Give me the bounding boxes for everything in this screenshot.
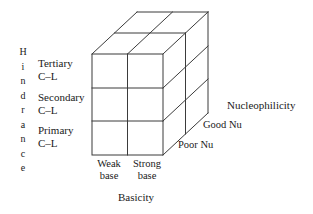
hindrance-category-tertiary: Tertiary C–L xyxy=(38,57,94,83)
hindrance-category-primary-line2: C–L xyxy=(38,137,94,150)
nucleophilicity-category-good-nu: Good Nu xyxy=(203,119,242,131)
hindrance-letter: c xyxy=(21,149,25,164)
basicity-category-strong-base-line1: Strong xyxy=(127,158,167,170)
hindrance-axis-title: H i n d r a n c e xyxy=(16,47,30,178)
basicity-category-weak-base-line2: base xyxy=(90,170,128,182)
hindrance-category-primary: Primary C–L xyxy=(38,124,94,150)
hindrance-category-tertiary-line1: Tertiary xyxy=(38,57,94,70)
front-face xyxy=(92,54,163,155)
basicity-category-strong-base-line2: base xyxy=(127,170,167,182)
nucleophilicity-category-poor-nu: Poor Nu xyxy=(178,139,213,151)
hindrance-letter: i xyxy=(22,62,25,77)
basicity-axis-title: Basicity xyxy=(100,191,172,204)
hindrance-letter: r xyxy=(21,105,24,120)
basicity-category-weak-base: Weak base xyxy=(90,158,128,183)
hindrance-category-tertiary-line2: C–L xyxy=(38,70,94,83)
hindrance-letter: e xyxy=(21,163,25,178)
hindrance-category-secondary-line1: Secondary xyxy=(38,91,94,104)
hindrance-letter: d xyxy=(21,91,26,106)
hindrance-category-secondary: Secondary C–L xyxy=(38,91,94,117)
hindrance-category-primary-line1: Primary xyxy=(38,124,94,137)
reaction-selection-cube-diagram: H i n d r a n c e Tertiary C–L Secondary… xyxy=(0,0,313,214)
nucleophilicity-axis-title: Nucleophilicity xyxy=(227,99,295,112)
basicity-category-strong-base: Strong base xyxy=(127,158,167,183)
hindrance-letter: n xyxy=(21,76,26,91)
hindrance-letter: n xyxy=(21,134,26,149)
hindrance-category-secondary-line2: C–L xyxy=(38,104,94,117)
basicity-category-weak-base-line1: Weak xyxy=(90,158,128,170)
hindrance-letter: a xyxy=(21,120,25,135)
hindrance-letter: H xyxy=(19,47,26,62)
